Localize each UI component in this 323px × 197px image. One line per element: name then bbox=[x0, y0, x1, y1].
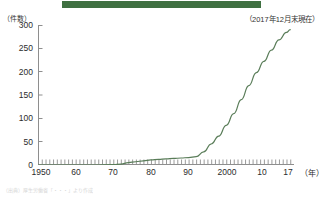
y-tick-label: 150 bbox=[19, 90, 33, 100]
chart-figure: （件数） （2017年12月末現在） 300 250 200 150 100 5… bbox=[0, 0, 323, 197]
chart-annotation: （2017年12月末現在） bbox=[245, 13, 319, 24]
y-tick-label: 200 bbox=[19, 67, 33, 77]
y-tick-label: 100 bbox=[19, 113, 33, 123]
x-tick-label: 1950 bbox=[32, 167, 51, 177]
x-tick-label: 70 bbox=[108, 167, 117, 177]
x-axis-minor-ticks bbox=[39, 160, 295, 165]
x-tick-label: 10 bbox=[257, 167, 266, 177]
x-tick-label: 60 bbox=[71, 167, 80, 177]
chart-canvas bbox=[38, 25, 294, 165]
plot-area bbox=[38, 25, 294, 165]
y-tick-label: 50 bbox=[24, 137, 33, 147]
axis-lines bbox=[38, 25, 294, 165]
x-tick-label: 2000 bbox=[218, 167, 237, 177]
y-tick-label: 250 bbox=[19, 43, 33, 53]
y-axis-ticks bbox=[39, 26, 43, 142]
header-green-bar bbox=[62, 1, 261, 8]
x-tick-label: 90 bbox=[183, 167, 192, 177]
y-tick-label: 300 bbox=[19, 20, 33, 30]
data-series-line bbox=[38, 30, 290, 165]
x-axis-unit-label: （年） bbox=[300, 167, 323, 178]
source-caption: （出典）厚生労働省「・・・」より作成 bbox=[3, 186, 93, 193]
x-tick-label: 17 bbox=[283, 167, 292, 177]
x-tick-label: 80 bbox=[146, 167, 155, 177]
